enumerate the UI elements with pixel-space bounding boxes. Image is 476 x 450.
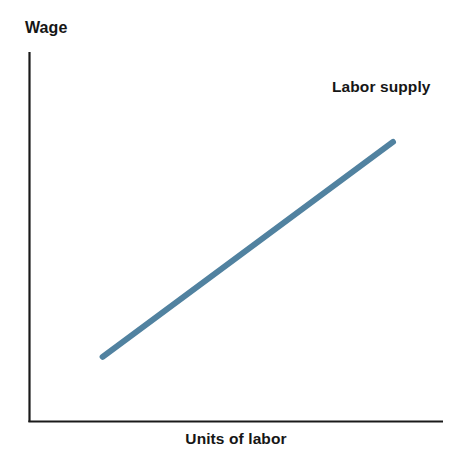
chart-figure: Wage Labor supply Units of labor: [0, 0, 476, 450]
labor-supply-label: Labor supply: [332, 77, 431, 97]
chart-plot-area: [0, 0, 476, 450]
y-axis-title: Wage: [25, 18, 67, 38]
labor-supply-line: [103, 142, 393, 357]
x-axis-title: Units of labor: [0, 429, 474, 449]
